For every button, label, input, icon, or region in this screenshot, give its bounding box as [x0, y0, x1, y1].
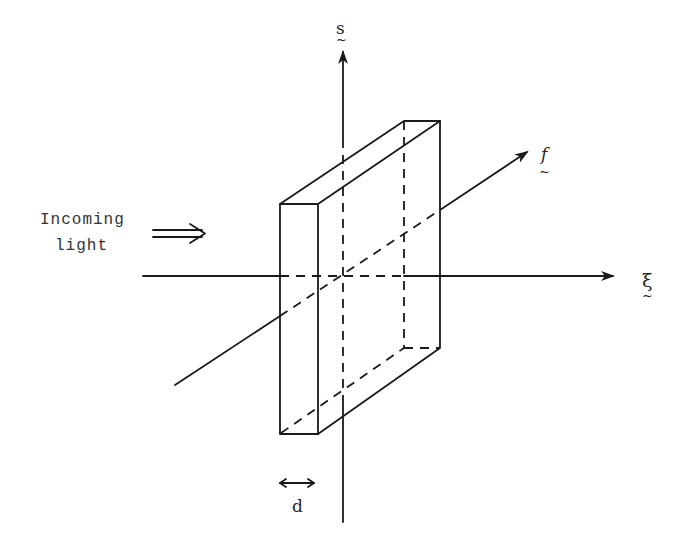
slab	[280, 121, 440, 434]
thickness-label: d	[292, 496, 303, 516]
slab-front-face	[280, 204, 318, 434]
incoming-light-label-line2: light	[55, 237, 108, 255]
incoming-light-label-line1: Incoming	[40, 211, 125, 229]
thickness-double-arrow-icon	[280, 479, 314, 487]
f-axis-tilde: ~	[539, 164, 550, 179]
slab-top-face	[280, 121, 440, 204]
s-axis-tilde: ~	[336, 32, 347, 47]
incoming-light-double-arrow-icon	[153, 224, 205, 243]
xi-axis-tilde: ~	[642, 288, 653, 303]
slab-diagram: s ~ f ~ ξ ~ Incoming light d	[0, 0, 686, 547]
slab-right-face	[318, 121, 440, 434]
f-axis	[175, 152, 527, 385]
f-axis-label: f	[539, 144, 550, 164]
